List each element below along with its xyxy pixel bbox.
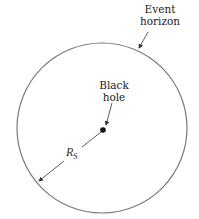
event-horizon-label-line1: Event (132, 3, 188, 15)
black-hole-pointer (106, 103, 112, 125)
radius-arrow-lower (39, 161, 64, 181)
event-horizon-pointer (139, 32, 148, 48)
radius-subscript: S (73, 152, 77, 161)
black-hole-label: Black hole (94, 79, 134, 103)
black-hole-label-line1: Black (94, 79, 134, 91)
black-hole-dot (100, 127, 106, 133)
black-hole-diagram (0, 0, 199, 219)
radius-arrow-upper (82, 132, 101, 147)
black-hole-label-line2: hole (94, 91, 134, 103)
event-horizon-label-line2: horizon (132, 15, 188, 27)
schwarzschild-radius-label: RS (66, 145, 78, 161)
event-horizon-label: Event horizon (132, 3, 188, 27)
